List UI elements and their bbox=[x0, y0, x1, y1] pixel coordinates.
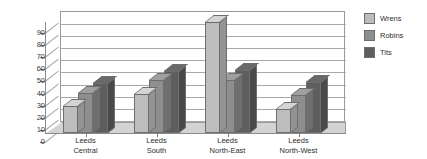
legend-item-wrens[interactable]: Wrens bbox=[364, 10, 424, 27]
bar-face bbox=[205, 22, 220, 133]
legend-label-robins: Robins bbox=[380, 31, 403, 40]
bar-side bbox=[306, 90, 313, 133]
x-axis-label-2: LeedsSouth bbox=[118, 136, 196, 156]
legend-swatch-tits bbox=[364, 47, 375, 58]
legend-swatch-robins bbox=[364, 30, 375, 41]
bar-wrens-4 bbox=[276, 109, 291, 133]
bar-side bbox=[93, 88, 100, 133]
bar-side bbox=[321, 77, 328, 133]
x-axis-label-line: South bbox=[118, 146, 196, 156]
bar-side bbox=[164, 74, 171, 133]
bar-wrens-3 bbox=[205, 22, 220, 133]
x-axis-label-3: LeedsNorth-East bbox=[189, 136, 267, 156]
x-axis-label-line: Leeds bbox=[118, 136, 196, 146]
legend-item-tits[interactable]: Tits bbox=[364, 44, 424, 61]
bar-face bbox=[134, 94, 149, 133]
x-axis-label-line: North-West bbox=[260, 146, 338, 156]
bar-face bbox=[63, 106, 78, 133]
bar-side bbox=[220, 16, 227, 133]
bar-wrens-2 bbox=[134, 94, 149, 133]
bar-side bbox=[179, 66, 186, 133]
legend-swatch-wrens bbox=[364, 13, 375, 24]
chart-legend: WrensRobinsTits bbox=[364, 10, 424, 61]
x-axis-label-1: LeedsCentral bbox=[47, 136, 125, 156]
x-axis-label-line: Leeds bbox=[47, 136, 125, 146]
x-axis-label-4: LeedsNorth-West bbox=[260, 136, 338, 156]
bar-wrens-1 bbox=[63, 106, 78, 133]
plot-area: 0102030405060708090 LeedsCentralLeedsSou… bbox=[0, 0, 360, 159]
bar-side bbox=[149, 89, 156, 133]
legend-label-tits: Tits bbox=[380, 48, 392, 57]
bar-side bbox=[108, 78, 115, 133]
x-axis-label-line: Central bbox=[47, 146, 125, 156]
x-axis-label-line: Leeds bbox=[189, 136, 267, 146]
x-axis-label-line: North-East bbox=[189, 146, 267, 156]
x-axis-label-line: Leeds bbox=[260, 136, 338, 146]
bar-face bbox=[276, 109, 291, 133]
legend-item-robins[interactable]: Robins bbox=[364, 27, 424, 44]
bar-side bbox=[235, 74, 242, 133]
legend-label-wrens: Wrens bbox=[380, 14, 402, 23]
bar-side bbox=[250, 65, 257, 133]
bar-chart: 0102030405060708090 LeedsCentralLeedsSou… bbox=[0, 0, 427, 159]
